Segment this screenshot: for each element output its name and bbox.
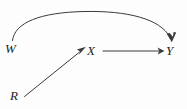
edge-r-to-x bbox=[25, 47, 87, 97]
node-label-w: W bbox=[5, 42, 16, 55]
node-label-r: R bbox=[10, 89, 18, 102]
edge-r-to-x-path bbox=[25, 51, 82, 97]
node-label-x: X bbox=[87, 44, 95, 57]
causal-diagram: W X Y R bbox=[0, 0, 187, 109]
edge-r-to-x-arrowhead bbox=[77, 47, 86, 55]
node-label-y: Y bbox=[166, 44, 173, 57]
edge-x-to-y bbox=[103, 48, 165, 55]
edge-w-to-y-arrowhead bbox=[167, 32, 177, 42]
edge-w-to-y-path bbox=[13, 11, 170, 40]
edge-w-to-y bbox=[13, 11, 177, 42]
